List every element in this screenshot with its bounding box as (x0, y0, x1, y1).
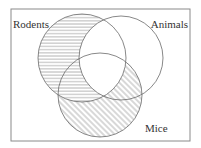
rodents-label: Rodents (13, 18, 49, 30)
animals-label: Animals (151, 18, 188, 30)
mice-label: Mice (145, 122, 168, 134)
venn-diagram: Rodents Animals Mice (0, 0, 201, 148)
rodents-shaded-region (38, 14, 126, 102)
